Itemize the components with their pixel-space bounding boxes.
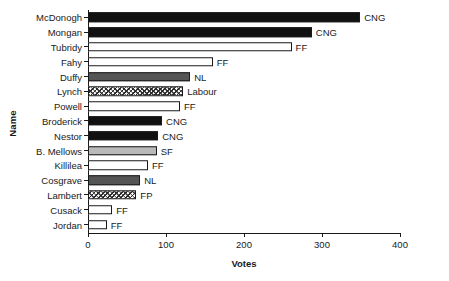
bar-row: McDonoghCNG bbox=[88, 10, 400, 25]
bar-value-label: FF bbox=[296, 41, 308, 52]
x-axis-tick bbox=[400, 233, 401, 237]
bar-value-label: NL bbox=[194, 71, 206, 82]
category-label: Lambert bbox=[47, 189, 82, 200]
bar bbox=[88, 42, 292, 52]
bar bbox=[88, 87, 183, 97]
bar-value-label: FF bbox=[116, 204, 128, 215]
category-label: Cusack bbox=[50, 204, 82, 215]
category-label: Tubridy bbox=[51, 41, 82, 52]
category-label: B. Mellows bbox=[36, 145, 82, 156]
bar-value-label: NL bbox=[144, 175, 156, 186]
bar-row: DuffyNL bbox=[88, 69, 400, 84]
category-label: Duffy bbox=[60, 71, 82, 82]
x-axis-tick-label: 400 bbox=[380, 239, 420, 250]
x-axis-tick-label: 0 bbox=[68, 239, 108, 250]
bar-row: LynchLabour bbox=[88, 84, 400, 99]
bar bbox=[88, 13, 360, 23]
x-axis-tick-label: 200 bbox=[224, 239, 264, 250]
bar-value-label: FF bbox=[217, 56, 229, 67]
bar bbox=[88, 57, 213, 67]
x-axis-tick bbox=[244, 233, 245, 237]
votes-bar-chart: Name Votes McDonoghCNGMonganCNGTubridyFF… bbox=[0, 0, 449, 281]
bar bbox=[88, 72, 190, 82]
x-axis-tick-label: 300 bbox=[302, 239, 342, 250]
bar-value-label: CNG bbox=[166, 115, 187, 126]
category-label: McDonogh bbox=[36, 12, 82, 23]
bar bbox=[88, 116, 162, 126]
bar bbox=[88, 101, 180, 111]
x-axis-title: Votes bbox=[88, 258, 400, 269]
bar bbox=[88, 146, 157, 156]
bar-value-label: CNG bbox=[316, 27, 337, 38]
x-axis-tick bbox=[166, 233, 167, 237]
bar bbox=[88, 27, 312, 37]
category-label: Jordan bbox=[53, 219, 82, 230]
bar-row: LambertFP bbox=[88, 188, 400, 203]
bar-row: BroderickCNG bbox=[88, 114, 400, 129]
bar-row: CusackFF bbox=[88, 202, 400, 217]
bar bbox=[88, 205, 112, 215]
bar-row: PowellFF bbox=[88, 99, 400, 114]
bar-row: CosgraveNL bbox=[88, 173, 400, 188]
category-label: Mongan bbox=[48, 27, 82, 38]
bar-value-label: CNG bbox=[364, 12, 385, 23]
bar-value-label: Labour bbox=[187, 86, 217, 97]
bar bbox=[88, 131, 158, 141]
bar-row: KillileaFF bbox=[88, 158, 400, 173]
bar-value-label: FF bbox=[111, 219, 123, 230]
bar-row: TubridyFF bbox=[88, 40, 400, 55]
bar-row: MonganCNG bbox=[88, 25, 400, 40]
bar bbox=[88, 161, 148, 171]
x-axis-tick-label: 100 bbox=[146, 239, 186, 250]
bar-value-label: SF bbox=[161, 145, 173, 156]
category-label: Fahy bbox=[61, 56, 82, 67]
x-axis-tick bbox=[88, 233, 89, 237]
bar-row: JordanFF bbox=[88, 217, 400, 232]
y-axis-title: Name bbox=[7, 94, 18, 154]
category-label: Nestor bbox=[54, 130, 82, 141]
x-axis-tick bbox=[322, 233, 323, 237]
bar-row: NestorCNG bbox=[88, 128, 400, 143]
category-label: Cosgrave bbox=[41, 175, 82, 186]
bar-row: B. MellowsSF bbox=[88, 143, 400, 158]
bar bbox=[88, 190, 136, 200]
bar-value-label: CNG bbox=[162, 130, 183, 141]
plot-area: McDonoghCNGMonganCNGTubridyFFFahyFFDuffy… bbox=[88, 10, 400, 232]
bar-row: FahyFF bbox=[88, 54, 400, 69]
bar-value-label: FP bbox=[140, 189, 152, 200]
category-label: Lynch bbox=[57, 86, 82, 97]
category-label: Powell bbox=[54, 101, 82, 112]
category-label: Broderick bbox=[42, 115, 82, 126]
bar bbox=[88, 175, 140, 185]
bar-value-label: FF bbox=[184, 101, 196, 112]
bar-value-label: FF bbox=[152, 160, 164, 171]
bar bbox=[88, 220, 107, 230]
category-label: Killilea bbox=[55, 160, 82, 171]
